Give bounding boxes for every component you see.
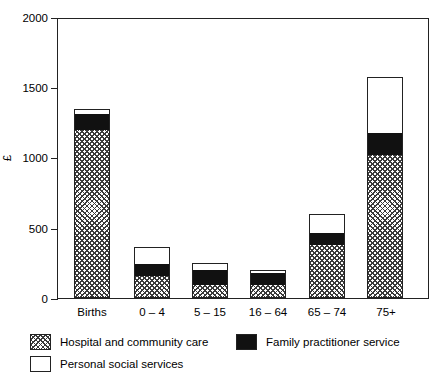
bar-segment-births-family-practitioner-service [74, 114, 110, 130]
legend-swatch-white-icon [30, 356, 51, 372]
bar-segment-75-personal-social-services [367, 77, 403, 133]
y-tick-mark-0 [51, 299, 58, 300]
legend-label-personal-social-services: Personal social services [60, 357, 183, 371]
bar-segment-75-hospital-and-community-care [367, 155, 403, 298]
y-tick-label-500: 500 [0, 223, 57, 235]
legend: Hospital and community care Family pract… [30, 331, 430, 375]
legend-item-family-practitioner-service: Family practitioner service [236, 331, 400, 353]
legend-row-2: Personal social services [30, 353, 430, 375]
bar-segment-0-4-hospital-and-community-care [134, 276, 170, 298]
bar-segment-16-64-family-practitioner-service [250, 273, 286, 285]
y-tick-label-1000: 1000 [0, 152, 57, 164]
bar-segment-0-4-family-practitioner-service [134, 264, 170, 276]
legend-item-hospital-and-community-care: Hospital and community care [30, 331, 208, 353]
bar-segment-5-15-personal-social-services [192, 263, 228, 270]
bar-segment-16-64-hospital-and-community-care [250, 285, 286, 298]
x-label-75plus: 75+ [346, 305, 426, 319]
y-tick-label-1500: 1500 [0, 82, 57, 94]
legend-swatch-crosshatch-icon [30, 334, 51, 350]
legend-item-personal-social-services: Personal social services [30, 353, 183, 375]
y-tick-label-2000: 2000 [0, 12, 57, 24]
bar-segment-65-74-hospital-and-community-care [309, 245, 345, 298]
bar-segment-0-4-personal-social-services [134, 247, 170, 264]
y-tick-label-0: 0 [0, 293, 57, 305]
plot-area [57, 18, 429, 299]
stacked-bar-chart: £ 2000 1500 1000 500 0 Births 0 – 4 5 – … [0, 0, 440, 379]
bar-segment-65-74-personal-social-services [309, 214, 345, 233]
bar-segment-16-64-personal-social-services [250, 270, 286, 273]
legend-label-hospital-and-community-care: Hospital and community care [60, 335, 208, 349]
bar-segment-births-personal-social-services [74, 109, 110, 114]
bar-segment-5-15-family-practitioner-service [192, 270, 228, 285]
bar-segment-births-hospital-and-community-care [74, 130, 110, 298]
legend-row-1: Hospital and community care Family pract… [30, 331, 430, 353]
legend-swatch-black-icon [236, 334, 257, 350]
bar-segment-75-family-practitioner-service [367, 133, 403, 155]
bar-segment-65-74-family-practitioner-service [309, 233, 345, 245]
legend-label-family-practitioner-service: Family practitioner service [266, 335, 400, 349]
bar-segment-5-15-hospital-and-community-care [192, 285, 228, 298]
